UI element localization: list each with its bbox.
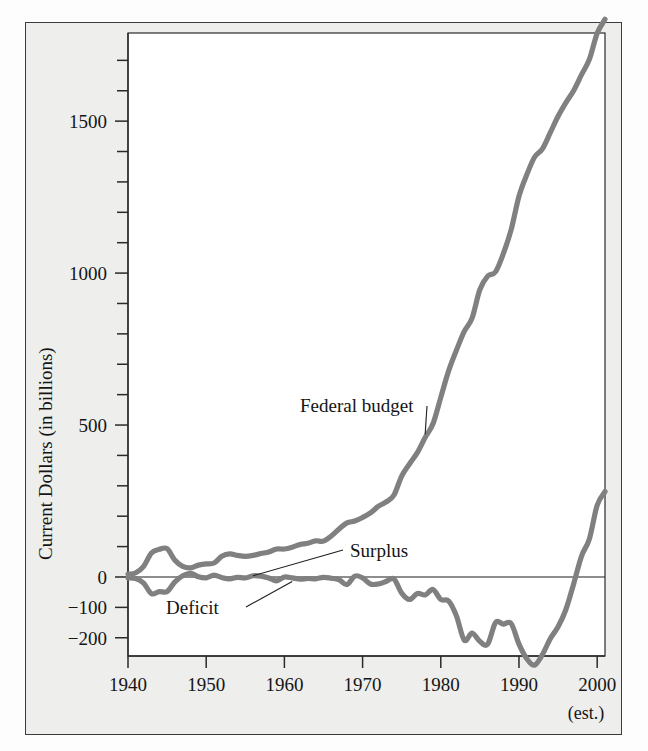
x-axis-tick-labels: 1940195019601970198019902000 [109,674,616,695]
chart-canvas: −200−100050010001500 1940195019601970198… [0,0,648,751]
y-tick-label: 0 [98,567,108,588]
y-axis-title: Current Dollars (in billions) [35,347,57,560]
y-tick-label: 500 [79,415,108,436]
y-tick-label: 1500 [69,111,107,132]
x-axis-estimate-note: (est.) [568,703,604,724]
y-tick-label: 1000 [69,263,107,284]
x-tick-label: 1960 [265,674,303,695]
x-tick-label: 1940 [109,674,147,695]
y-axis-tick-labels: −200−100050010001500 [68,111,107,649]
x-tick-label: 1950 [187,674,225,695]
x-tick-label: 2000 [578,674,616,695]
x-tick-label: 1990 [500,674,538,695]
annotation-surplus: Surplus [350,540,408,561]
y-tick-label: −100 [68,597,107,618]
y-tick-label: −200 [68,628,107,649]
y-axis-ticks [115,60,128,637]
annotation-federal-budget: Federal budget [300,395,414,416]
annotation-deficit: Deficit [166,597,219,618]
x-tick-label: 1970 [344,674,382,695]
x-tick-label: 1980 [422,674,460,695]
figure-container: −200−100050010001500 1940195019601970198… [0,0,648,751]
